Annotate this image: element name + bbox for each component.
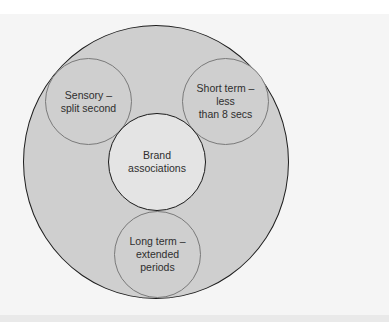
top-band <box>0 0 389 14</box>
brand-associations-circle: Brand associations <box>108 113 206 211</box>
long-term-memory-circle: Long term – extended periods <box>114 211 201 298</box>
brand-associations-label: Brand associations <box>128 149 186 175</box>
short-term-memory-label: Short term – less than 8 secs <box>197 82 255 121</box>
long-term-memory-label: Long term – extended periods <box>129 235 185 274</box>
bottom-band <box>0 315 389 322</box>
sensory-memory-label: Sensory – split second <box>61 89 116 115</box>
